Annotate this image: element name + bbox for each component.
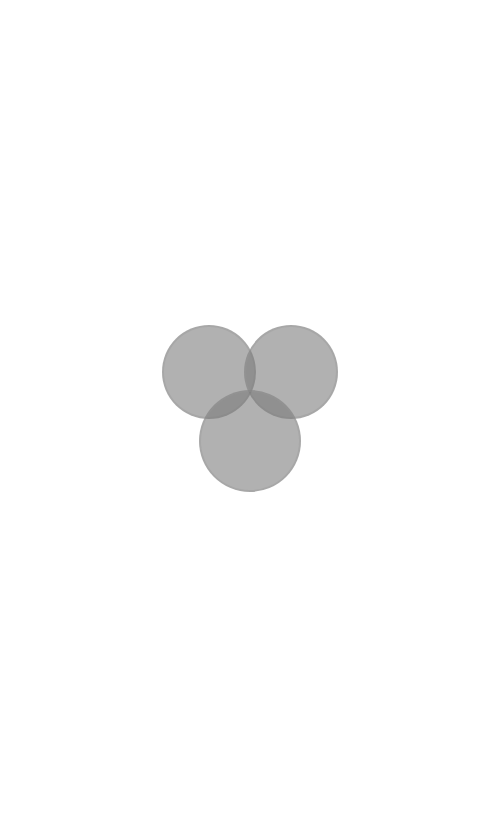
bottom-circle-icon bbox=[199, 390, 301, 492]
loading-screen bbox=[0, 0, 489, 815]
venn-logo bbox=[0, 0, 489, 815]
